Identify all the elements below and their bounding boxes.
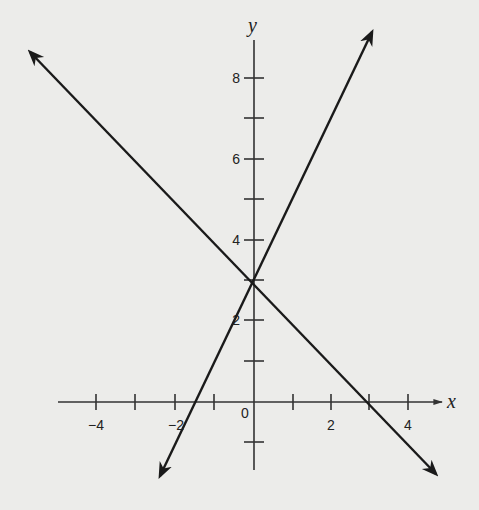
line-decreasing [30,52,436,474]
x-axis-label: x [446,390,456,412]
x-tick-label: 4 [404,417,412,433]
x-tick-label: −4 [88,417,104,433]
graph-figure: −4 −2 2 4 0 2 4 6 8 x y [0,0,479,510]
x-tick-label: 2 [327,417,335,433]
y-tick-label: 8 [232,70,240,86]
y-axis-label: y [246,14,257,37]
y-tick-label: 4 [232,232,240,248]
origin-label: 0 [241,405,249,421]
line-increasing [160,32,372,476]
y-tick-label: 6 [232,151,240,167]
coordinate-plane: −4 −2 2 4 0 2 4 6 8 x y [0,0,479,510]
